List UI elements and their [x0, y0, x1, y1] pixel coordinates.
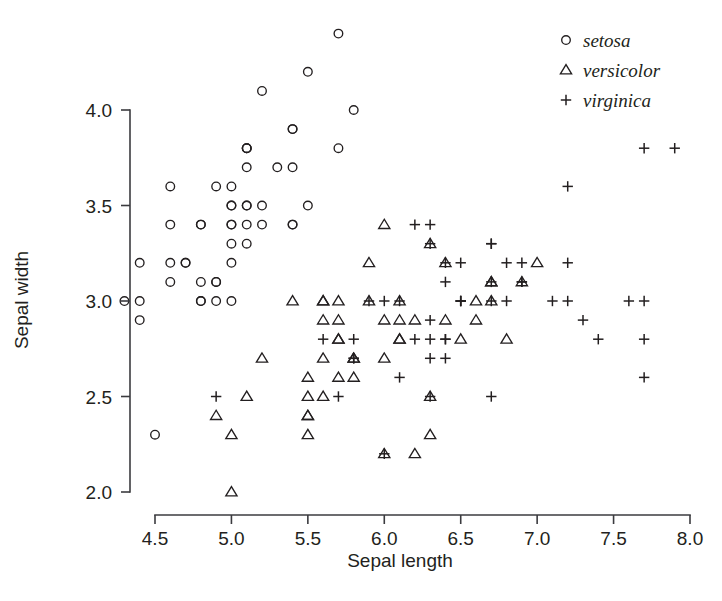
x-tick-label: 7.0 — [524, 528, 550, 549]
data-point-circle — [135, 316, 144, 325]
data-point-triangle — [348, 372, 359, 381]
x-tick-label: 4.5 — [142, 528, 168, 549]
data-point-plus — [349, 334, 359, 344]
y-axis: 2.02.53.03.54.0 — [86, 100, 130, 503]
legend-item-setosa[interactable]: setosa — [562, 30, 631, 51]
x-tick-label: 5.5 — [295, 528, 321, 549]
data-point-circle — [227, 201, 236, 210]
data-point-triangle — [318, 353, 329, 362]
data-point-circle — [151, 430, 160, 439]
data-point-plus — [410, 334, 420, 344]
data-point-triangle — [379, 353, 390, 362]
data-point-triangle — [333, 315, 344, 324]
data-point-triangle — [211, 410, 222, 419]
x-axis: 4.55.05.56.06.57.07.58.0 — [142, 515, 703, 549]
data-point-circle — [135, 259, 144, 268]
data-point-triangle — [333, 334, 344, 343]
data-point-circle — [227, 239, 236, 248]
legend-label-setosa: setosa — [583, 30, 631, 51]
data-point-triangle — [333, 372, 344, 381]
data-point-circle — [242, 144, 251, 153]
data-point-triangle — [226, 429, 237, 438]
data-point-triangle — [333, 334, 344, 343]
data-point-triangle — [241, 391, 252, 400]
data-point-circle — [197, 278, 206, 287]
data-point-triangle — [409, 315, 420, 324]
data-point-triangle — [394, 334, 405, 343]
data-point-plus — [639, 296, 649, 306]
data-point-circle — [304, 68, 313, 77]
data-point-plus — [486, 391, 496, 401]
data-point-circle — [334, 144, 343, 153]
data-point-circle — [288, 163, 297, 172]
data-point-plus — [318, 334, 328, 344]
data-point-plus — [593, 334, 603, 344]
data-point-triangle — [440, 315, 451, 324]
data-point-circle — [166, 182, 175, 191]
data-point-plus — [486, 239, 496, 249]
data-point-circle — [304, 201, 313, 210]
series-setosa — [120, 29, 358, 439]
data-point-triangle — [226, 487, 237, 496]
x-tick-label: 5.0 — [218, 528, 244, 549]
data-point-circle — [242, 163, 251, 172]
data-point-circle — [166, 220, 175, 229]
data-point-triangle — [409, 448, 420, 457]
data-point-plus — [425, 219, 435, 229]
x-tick-label: 6.5 — [448, 528, 474, 549]
data-point-triangle — [455, 334, 466, 343]
data-point-plus — [501, 258, 511, 268]
data-point-circle — [258, 220, 267, 229]
data-point-circle — [212, 278, 221, 287]
data-point-plus — [561, 95, 571, 105]
data-point-plus — [425, 353, 435, 363]
data-point-plus — [394, 372, 404, 382]
x-tick-label: 6.0 — [371, 528, 397, 549]
data-point-plus — [501, 296, 511, 306]
y-tick-label: 4.0 — [86, 100, 112, 121]
data-point-circle — [242, 201, 251, 210]
data-point-circle — [227, 297, 236, 306]
y-tick-label: 3.5 — [86, 196, 112, 217]
data-point-triangle — [302, 410, 313, 419]
data-point-triangle — [256, 353, 267, 362]
data-point-plus — [440, 277, 450, 287]
data-point-plus — [547, 296, 557, 306]
data-point-circle — [288, 125, 297, 134]
data-point-circle — [197, 297, 206, 306]
data-point-plus — [379, 296, 389, 306]
data-point-plus — [456, 258, 466, 268]
y-tick-label: 2.0 — [86, 482, 112, 503]
data-point-circle — [258, 87, 267, 96]
data-point-triangle — [425, 429, 436, 438]
data-point-circle — [349, 106, 358, 115]
legend-item-versicolor[interactable]: versicolor — [560, 60, 660, 81]
data-point-plus — [639, 372, 649, 382]
data-point-triangle — [302, 410, 313, 419]
data-point-triangle — [532, 257, 543, 266]
data-point-circle — [227, 182, 236, 191]
data-point-circle — [212, 297, 221, 306]
data-point-plus — [440, 334, 450, 344]
series-virginica — [211, 143, 680, 459]
data-point-circle — [135, 297, 144, 306]
data-point-circle — [562, 36, 571, 45]
data-point-plus — [563, 296, 573, 306]
data-point-triangle — [470, 315, 481, 324]
data-point-circle — [166, 259, 175, 268]
data-point-triangle — [501, 334, 512, 343]
data-point-plus — [563, 181, 573, 191]
data-point-triangle — [470, 296, 481, 305]
data-point-circle — [288, 220, 297, 229]
data-point-plus — [425, 315, 435, 325]
data-point-plus — [410, 219, 420, 229]
y-tick-label: 3.0 — [86, 291, 112, 312]
legend-item-virginica[interactable]: virginica — [561, 90, 651, 111]
data-point-plus — [333, 391, 343, 401]
data-point-plus — [578, 315, 588, 325]
data-point-triangle — [394, 315, 405, 324]
data-point-triangle — [302, 429, 313, 438]
data-point-triangle — [302, 372, 313, 381]
data-point-plus — [639, 334, 649, 344]
y-tick-label: 2.5 — [86, 387, 112, 408]
